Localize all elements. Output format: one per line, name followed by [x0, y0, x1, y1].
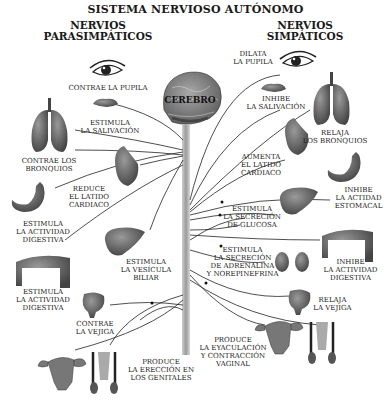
salivary-gland-icon	[93, 99, 118, 107]
bladder-icon	[83, 292, 105, 318]
brain-label: CEREBRO	[164, 95, 215, 105]
brain-illustration: CEREBRO	[163, 72, 221, 124]
label-para-intestine: ESTIMULA LA ACTIVIDAD DIGESTIVA	[8, 288, 78, 312]
heart-icon	[115, 146, 138, 186]
liver-icon	[280, 188, 318, 215]
bladder-icon	[289, 289, 311, 315]
label-symp-genitals: PRODUCE LA EYACULACIÓN Y CONTRACCIÓN VAG…	[198, 336, 268, 368]
kidney-icon	[295, 252, 309, 272]
stomach-icon	[12, 182, 45, 212]
nerve-bladder-para	[110, 303, 183, 306]
ganglion	[221, 201, 224, 204]
label-symp-bladder: RELAJA LA VEJIGA	[310, 296, 355, 312]
female-reproductive-icon	[38, 357, 86, 390]
ganglion	[151, 302, 154, 305]
nerve-intestine-symp	[190, 235, 320, 240]
liver-icon	[105, 228, 145, 256]
eye-icon	[90, 60, 125, 75]
label-para-salivation: ESTIMULA LA SALIVACIÓN	[80, 119, 140, 135]
label-symp-adrenaline: ESTIMULA LA SECRECIÓN DE ADRENALINA Y NO…	[205, 246, 280, 278]
label-symp-heart: AUMENTA EL LATIDO CARDIACO	[236, 153, 286, 177]
ganglion	[205, 282, 208, 285]
label-para-gallbladder: ESTIMULA LA VESÍCULA BILIAR	[116, 258, 176, 282]
label-para-bladder: CONTRAE LA VEJIGA	[70, 320, 120, 336]
male-reproductive-icon	[90, 352, 118, 394]
label-symp-salivation: INHIBE LA SALIVACIÓN	[246, 95, 306, 111]
lungs-icon	[314, 72, 350, 125]
label-para-bronchi: CONTRAE LOS BRONQUIOS	[14, 157, 84, 173]
label-para-stomach: ESTIMULA LA ACTIVIDAD DIGESTIVA	[8, 220, 78, 244]
label-para-heart: REDUCE EL LATIDO CARDIACO	[64, 185, 114, 209]
label-symp-intestine: INHIBE LA ACTIVIDAD DIGESTIVA	[318, 258, 383, 282]
nerve-genitals-symp-1	[190, 275, 265, 325]
nerve-heart-para	[140, 156, 183, 165]
nerve-liver-para	[150, 160, 183, 230]
male-reproductive-icon	[308, 322, 336, 364]
label-para-genitals: PRODUCE LA ERECCIÓN EN LOS GENITALES	[126, 358, 196, 382]
label-symp-glucose: ESTIMULA LA SECRECIÓN DE GLUCOSA	[222, 205, 282, 229]
spinal-cord	[182, 125, 190, 355]
nerve-genitals-para-3	[140, 307, 183, 320]
label-para-pupil: CONTRAE LA PUPILA	[58, 84, 158, 92]
label-symp-pupil: DILATA LA PUPILA	[228, 50, 278, 66]
intestine-icon	[16, 256, 70, 288]
lungs-icon	[32, 98, 68, 152]
label-symp-stomach: INHIBE LA ACTIDAD ESTOMACAL	[326, 186, 391, 210]
label-symp-bronchi: RELAJA LOS BRONQUIOS	[300, 129, 370, 145]
eye-icon	[280, 51, 316, 66]
salivary-gland-icon	[261, 84, 286, 92]
stomach-icon	[328, 152, 361, 182]
